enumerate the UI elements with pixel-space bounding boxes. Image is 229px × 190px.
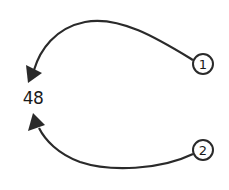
node-2-label: 2 [199,143,207,158]
node-1-label: 1 [199,57,207,72]
node-2: 2 [193,140,213,160]
arrow-2-path [39,128,193,168]
center-value: 48 [18,88,48,108]
node-1: 1 [193,54,213,74]
arrow-2-head-icon [28,113,45,131]
arrow-1-path [34,21,193,70]
